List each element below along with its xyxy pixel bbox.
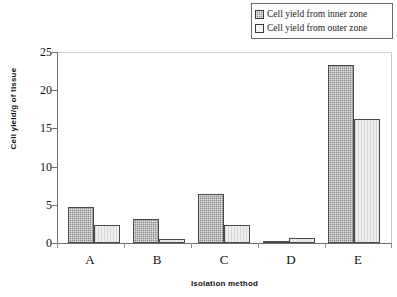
outer-zone-swatch (255, 24, 264, 33)
bar-E-inner-zone (328, 65, 354, 243)
x-tick-mark (258, 243, 259, 248)
y-tick-label-0: 0 (32, 236, 52, 251)
x-tick-label-E: E (338, 252, 378, 268)
bar-chart-figure: Cell yield from inner zone Cell yield fr… (0, 0, 397, 297)
bar-group-B (133, 52, 185, 243)
x-tick-mark (57, 243, 58, 248)
legend-item-label: Cell yield from inner zone (267, 9, 367, 20)
bar-C-outer-zone (224, 225, 250, 243)
x-tick-label-D: D (271, 252, 311, 268)
legend-item-outer-zone: Cell yield from outer zone (255, 21, 388, 35)
x-tick-mark (391, 243, 392, 248)
legend-item-inner-zone: Cell yield from inner zone (255, 7, 388, 21)
x-tick-label-C: C (204, 252, 244, 268)
bar-A-outer-zone (94, 225, 120, 243)
bar-group-E (328, 52, 380, 243)
y-tick-label-5: 5 (32, 197, 52, 212)
bar-E-outer-zone (354, 119, 380, 243)
plot-area (57, 52, 392, 243)
x-tick-mark (124, 243, 125, 248)
bar-group-C (198, 52, 250, 243)
bar-group-A (68, 52, 120, 243)
y-axis-ticks: 0 5 10 15 20 25 (0, 0, 52, 297)
x-tick-mark (191, 243, 192, 248)
x-tick-mark (325, 243, 326, 248)
x-axis-title: Isolation method (57, 279, 392, 288)
x-tick-label-B: B (137, 252, 177, 268)
y-tick-label-10: 10 (32, 159, 52, 174)
y-tick-label-20: 20 (32, 83, 52, 98)
bar-B-inner-zone (133, 219, 159, 243)
bar-C-inner-zone (198, 194, 224, 243)
x-axis-line (57, 243, 392, 244)
y-tick-label-15: 15 (32, 121, 52, 136)
x-tick-label-A: A (70, 252, 110, 268)
y-tick-label-25: 25 (32, 45, 52, 60)
legend-item-label: Cell yield from outer zone (267, 23, 367, 34)
inner-zone-swatch (255, 10, 264, 19)
bar-A-inner-zone (68, 207, 94, 243)
bar-group-D (263, 52, 315, 243)
chart-legend: Cell yield from inner zone Cell yield fr… (251, 3, 393, 39)
